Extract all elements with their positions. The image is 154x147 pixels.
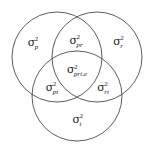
label-variance-person: σ2p bbox=[28, 37, 39, 48]
subscript: t bbox=[80, 120, 82, 128]
subscript: pt bbox=[53, 88, 58, 96]
label-variance-person-rater: σ2pr bbox=[69, 35, 82, 46]
venn-diagram-figure: σ2p σ2pr σ2r σ2prt,e σ2pt σ2rt σ2t bbox=[0, 0, 154, 147]
label-variance-rater: σ2r bbox=[113, 36, 123, 47]
label-variance-rater-time: σ2rt bbox=[97, 82, 109, 93]
label-variance-person-time: σ2pt bbox=[46, 82, 58, 93]
subscript: pr bbox=[76, 41, 82, 49]
label-variance-time: σ2t bbox=[73, 114, 82, 125]
subscript: r bbox=[120, 42, 123, 50]
subscript: p bbox=[35, 43, 39, 51]
subscript: prt,e bbox=[74, 70, 87, 78]
subscript: rt bbox=[104, 88, 109, 96]
label-variance-person-rater-time-error: σ2prt,e bbox=[67, 64, 87, 75]
